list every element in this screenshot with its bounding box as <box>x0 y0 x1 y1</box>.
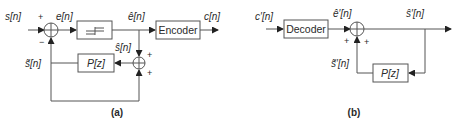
decoder-label: Decoder <box>286 23 326 35</box>
summing-junction-1 <box>44 23 58 37</box>
signal-s-hat-label: ŝ[n] <box>115 42 131 53</box>
sum1-plus-sign: + <box>38 12 43 22</box>
predictor-label-a: P[z] <box>87 57 106 69</box>
sum-b-left-plus-sign: + <box>344 36 349 46</box>
bottom-loop-arrow <box>51 70 139 101</box>
summing-junction-2 <box>133 57 145 69</box>
quantizer-block <box>77 21 112 39</box>
signal-s-tilde-prime-label: s̃′[n] <box>331 58 349 69</box>
encoder-block: Encoder <box>156 21 200 39</box>
predictor-block-b: P[z] <box>373 64 408 82</box>
signal-s-hat-prime-label: ŝ′[n] <box>406 8 424 19</box>
signal-s-label: s[n] <box>5 11 21 22</box>
signal-e-hat-prime-label: ê′[n] <box>333 8 352 19</box>
signal-c-prime-label: c′[n] <box>255 11 273 22</box>
decoder-block: Decoder <box>284 20 328 38</box>
signal-c-label: c[n] <box>204 11 220 22</box>
signal-e-hat-label: ê[n] <box>128 11 145 22</box>
diagram-a-encoder: s[n] + − e[n] ê[n] Encoder <box>5 11 220 118</box>
signal-s-tilde-label: s̃[n] <box>25 58 41 69</box>
sum2-top-plus-sign: + <box>147 50 152 60</box>
caption-b: (b) <box>348 107 361 118</box>
diagram-b-decoder: c′[n] Decoder ê′[n] + + ŝ′[n] P[z] s̃′[n… <box>255 8 451 118</box>
sum1-minus-sign: − <box>39 37 44 47</box>
predictor-block-a: P[z] <box>78 54 114 72</box>
caption-a: (a) <box>111 107 123 118</box>
predictor-label-b: P[z] <box>381 67 400 79</box>
sum-b-right-plus-sign: + <box>364 37 369 47</box>
feedback-to-predictor-arrow <box>409 29 425 73</box>
encoder-label: Encoder <box>158 24 198 36</box>
summing-junction-b <box>350 22 364 36</box>
sum2-bottom-plus-sign: + <box>147 68 152 78</box>
signal-e-label: e[n] <box>56 11 73 22</box>
